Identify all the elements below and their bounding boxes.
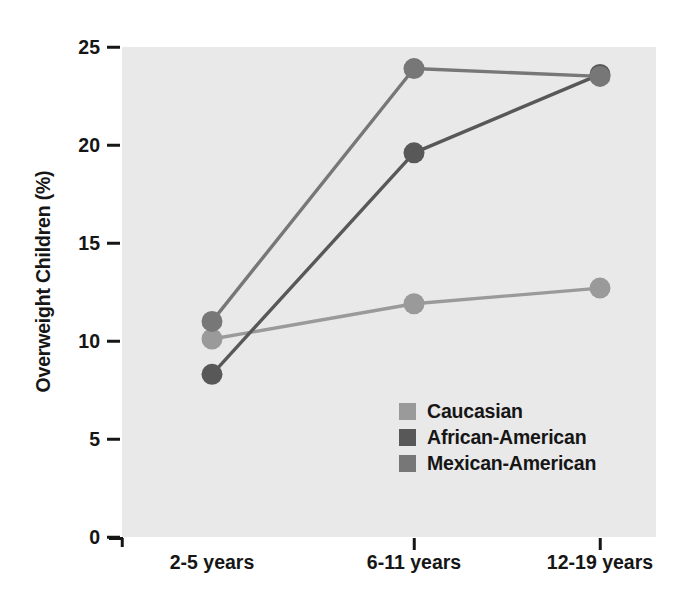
x-tick-label: 2-5 years [117,551,307,574]
y-tick-label: 0 [40,526,100,549]
y-tick-mark [107,438,120,441]
x-tick-mark [599,538,602,550]
y-tick-label: 5 [40,428,100,451]
x-tick-label: 6-11 years [319,551,509,574]
legend-item: African-American [399,424,596,450]
y-tick-label: 25 [40,36,100,59]
legend-swatch-caucasian [399,403,416,420]
x-tick-label: 12-19 years [505,551,683,574]
y-tick-label: 10 [40,330,100,353]
line-chart-figure: Overweight Children (%) 0510152025 2-5 y… [0,0,683,602]
x-axis-origin-mark-horizontal [109,537,123,540]
y-tick-label: 15 [40,232,100,255]
legend-swatch-african-american [399,429,416,446]
legend-swatch-mexican-american [399,455,416,472]
y-tick-mark [107,46,120,49]
legend-item: Mexican-American [399,450,596,476]
y-tick-mark [107,340,120,343]
legend-item-label: Caucasian [427,400,523,423]
y-tick-mark [107,242,120,245]
y-tick-label: 20 [40,134,100,157]
legend-item-label: Mexican-American [427,452,596,475]
legend-item-label: African-American [427,426,586,449]
x-tick-mark [413,538,416,550]
legend: CaucasianAfrican-AmericanMexican-America… [399,398,596,476]
legend-item: Caucasian [399,398,596,424]
y-tick-mark [107,144,120,147]
